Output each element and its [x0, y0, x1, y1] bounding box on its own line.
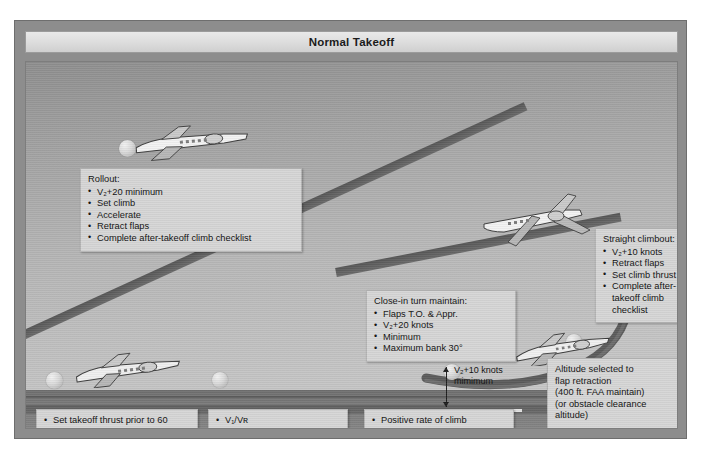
list-item: V₂+10 knots: [603, 247, 678, 259]
flap-retraction-line: Altitude selected to: [555, 364, 678, 376]
list-item: V₁/Vʀ: [216, 415, 340, 427]
altitude-speed-line2: mimimum: [454, 376, 503, 387]
callout-straight-climbout: Straight climbout: V₂+10 knots Retract f…: [595, 228, 678, 323]
list-item: Rotate smoothly to 10° nose up: [216, 427, 340, 429]
altitude-speed-label: V₂+10 knots mimimum: [454, 365, 503, 387]
list-item: V₂+20 minimum: [88, 187, 294, 199]
aircraft-banking-turn: [464, 184, 596, 252]
list-item: Positive rate of climb: [372, 415, 506, 427]
aircraft-rotating: [62, 352, 188, 388]
callout-close-in-turn-heading: Close-in turn maintain:: [374, 296, 508, 308]
list-item: Flaps T.O. & Appr.: [374, 309, 508, 321]
list-item: Accelerate: [88, 210, 294, 222]
list-item: Gear up: [372, 427, 506, 429]
list-item: Complete after-takeoff climb checklist: [603, 281, 678, 316]
poster-title-bar: Normal Takeoff: [25, 31, 678, 53]
list-item: V₂+20 knots: [374, 320, 508, 332]
page-title: Normal Takeoff: [309, 36, 395, 48]
aircraft-climbing: [124, 124, 256, 162]
altitude-arrow: [446, 367, 447, 407]
altitude-speed-line1: V₂+10 knots: [454, 365, 503, 376]
list-item: Retract flaps: [603, 258, 678, 270]
callout-takeoff-thrust-list: Set takeoff thrust prior to 60 knots 70 …: [44, 415, 190, 429]
list-item: Retract flaps: [88, 221, 294, 233]
callout-rotate-list: V₁/Vʀ Rotate smoothly to 10° nose up: [216, 415, 340, 429]
callout-rotate: V₁/Vʀ Rotate smoothly to 10° nose up: [208, 409, 348, 429]
list-item: Minimum: [374, 332, 508, 344]
callout-takeoff-thrust: Set takeoff thrust prior to 60 knots 70 …: [36, 409, 198, 429]
flap-retraction-line: (400 ft. FAA maintain): [555, 387, 678, 399]
callout-rollout-heading: Rollout:: [88, 174, 294, 186]
callout-straight-climbout-heading: Straight climbout:: [603, 234, 678, 246]
poster-frame: Normal Takeoff: [14, 20, 687, 439]
list-item: Set takeoff thrust prior to 60 knots: [44, 415, 190, 429]
list-item: Set climb: [88, 198, 294, 210]
callout-close-in-turn-list: Flaps T.O. & Appr. V₂+20 knots Minimum M…: [374, 309, 508, 355]
takeoff-scene: V₂+10 knots mimimum Rollout: V₂+20 minim…: [25, 61, 678, 429]
flap-retraction-line: (or obstacle clearance: [555, 399, 678, 411]
diagram-canvas: Normal Takeoff: [0, 0, 701, 453]
list-item: Complete after-takeoff climb checklist: [88, 233, 294, 245]
flap-retraction-line: altitude): [555, 410, 678, 422]
list-item: Set climb thrust: [603, 270, 678, 282]
callout-positive-rate-list: Positive rate of climb Gear up: [372, 415, 506, 429]
list-item: Maximum bank 30°: [374, 343, 508, 355]
callout-straight-climbout-list: V₂+10 knots Retract flaps Set climb thru…: [603, 247, 678, 317]
callout-positive-rate: Positive rate of climb Gear up: [364, 409, 514, 429]
callout-flap-retraction-altitude: Altitude selected to flap retraction (40…: [547, 358, 678, 429]
callout-close-in-turn: Close-in turn maintain: Flaps T.O. & App…: [366, 290, 516, 362]
callout-rollout: Rollout: V₂+20 minimum Set climb Acceler…: [80, 168, 302, 252]
waypoint-node: [46, 372, 63, 389]
flap-retraction-line: flap retraction: [555, 376, 678, 388]
callout-rollout-list: V₂+20 minimum Set climb Accelerate Retra…: [88, 187, 294, 245]
waypoint-node: [212, 372, 228, 388]
